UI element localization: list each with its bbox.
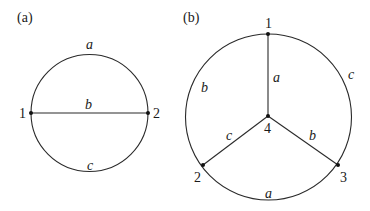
panel-a: (a) 1 2 a b c <box>17 10 160 173</box>
panel-b-node-4-label: 4 <box>264 121 271 136</box>
panel-a-node-2-label: 2 <box>153 106 160 121</box>
panel-b-node-3 <box>336 163 340 167</box>
panel-b-node-3-label: 3 <box>340 170 347 185</box>
panel-a-node-1 <box>29 111 33 115</box>
panel-b-edge-b-spoke-label: b <box>309 128 316 143</box>
panel-b-spoke-4-3 <box>268 116 338 165</box>
panel-a-edge-a-label: a <box>86 37 93 52</box>
panel-b-edge-a-spoke-label: a <box>273 70 280 85</box>
panel-b-edge-c-spoke-label: c <box>226 128 233 143</box>
panel-a-edge-c-label: c <box>87 158 94 173</box>
panel-b: (b) 1 2 3 4 a c b b c a <box>183 10 355 201</box>
panel-b-edge-c-arc-label: c <box>348 67 355 82</box>
panel-a-node-1-label: 1 <box>19 106 26 121</box>
panel-b-node-1-label: 1 <box>265 16 272 31</box>
panel-b-node-1 <box>266 32 270 36</box>
panel-b-node-4 <box>266 114 270 118</box>
diagram-canvas: (a) 1 2 a b c (b) 1 2 3 4 a c b b c a <box>0 0 370 211</box>
panel-b-edge-a-arc-label: a <box>265 186 272 201</box>
panel-b-spoke-4-2 <box>203 116 268 165</box>
panel-a-caption: (a) <box>17 10 33 26</box>
panel-a-node-2 <box>146 111 150 115</box>
panel-a-edge-b-label: b <box>85 97 92 112</box>
panel-b-node-2-label: 2 <box>194 170 201 185</box>
panel-b-caption: (b) <box>183 10 200 26</box>
panel-b-edge-b-arc-label: b <box>201 80 208 95</box>
panel-b-node-2 <box>201 163 205 167</box>
